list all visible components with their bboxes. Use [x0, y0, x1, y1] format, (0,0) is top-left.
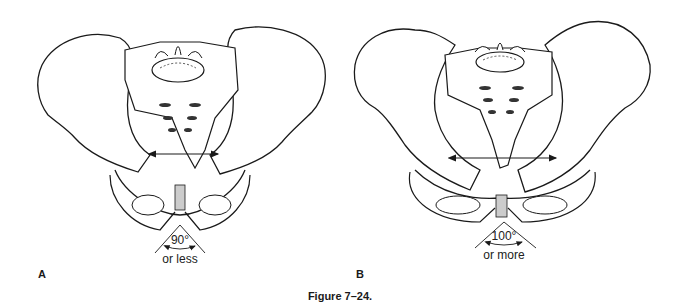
- panel-label-b: B: [356, 268, 364, 280]
- angle-qualifier-a: or less: [150, 252, 210, 266]
- panel-label-a: A: [38, 268, 46, 280]
- pelvis-drawing-a: [20, 0, 340, 270]
- angle-value-b: 100°: [474, 229, 534, 243]
- angle-qualifier-b: or more: [474, 248, 534, 262]
- pelvis-panel-a: 90° or less: [20, 0, 340, 270]
- pelvis-panel-b: 100° or more: [340, 0, 670, 270]
- angle-value-a: 90°: [150, 233, 210, 247]
- figure-caption: Figure 7–24.: [0, 290, 680, 302]
